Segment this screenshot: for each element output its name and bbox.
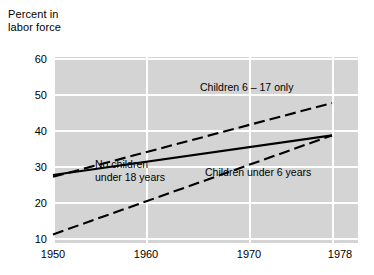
x-tick-1960: 1960: [134, 248, 158, 260]
y-tick-60: 60: [1, 53, 47, 65]
x-tick-1950: 1950: [41, 248, 65, 260]
y-axis-tick-labels: 60 50 40 30 20 10: [0, 57, 47, 243]
plot-area: Children 6 – 17 only No children under 1…: [53, 57, 358, 243]
x-tick-1970: 1970: [237, 248, 261, 260]
annotation-children-under-6: Children under 6 years: [205, 166, 311, 179]
y-tick-20: 20: [1, 197, 47, 209]
labor-force-line-chart: Percent inlabor force 60 50 40 30 20 10 …: [0, 0, 374, 275]
y-tick-10: 10: [1, 233, 47, 245]
y-tick-50: 50: [1, 89, 47, 101]
annotation-no-children: No children under 18 years: [95, 158, 165, 184]
x-axis-tick-labels: 1950 1960 1970 1978: [0, 248, 374, 266]
y-axis-title-line2: labor force: [8, 21, 61, 33]
x-tick-1978: 1978: [328, 248, 352, 260]
y-tick-40: 40: [1, 125, 47, 137]
annotation-children-6-17: Children 6 – 17 only: [200, 81, 293, 94]
y-axis-title-line1: Percent in: [8, 8, 59, 20]
y-tick-30: 30: [1, 161, 47, 173]
series-line-children-under-6-years: [53, 135, 332, 234]
y-axis-title: Percent inlabor force: [8, 8, 61, 34]
